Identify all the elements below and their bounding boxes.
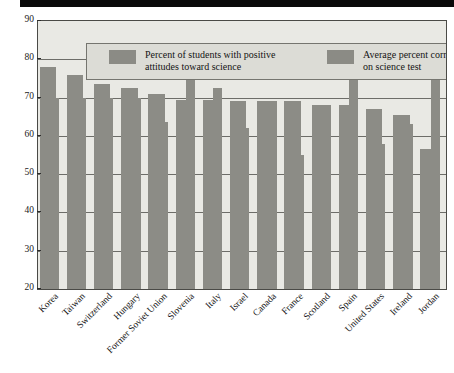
y-axis-tick-label: 30 — [0, 245, 34, 255]
y-axis-tick-label: 40 — [0, 206, 34, 216]
y-axis-tick-mark — [37, 250, 41, 251]
bar-positive-attitudes — [312, 105, 328, 289]
y-axis-tick-mark — [37, 288, 41, 289]
legend-item-test-score: Average percent correct on science test — [327, 49, 447, 72]
top-rule — [20, 0, 454, 7]
bar-positive-attitudes — [339, 105, 355, 289]
y-axis-tick-label: 60 — [0, 130, 34, 140]
bar-positive-attitudes — [148, 94, 164, 289]
x-axis-labels: KoreaTaiwanSwitzerlandHungaryFormer Sovi… — [0, 291, 454, 373]
x-axis-tick-label: Ireland — [388, 291, 414, 317]
x-axis-tick-label: Canada — [250, 291, 277, 318]
legend-label: Percent of students with positive attitu… — [145, 49, 276, 72]
bar-positive-attitudes — [40, 67, 56, 289]
y-axis-tick-mark — [37, 20, 41, 21]
bar-positive-attitudes — [366, 109, 382, 289]
bar-positive-attitudes — [230, 101, 246, 289]
bar-positive-attitudes — [121, 88, 137, 289]
x-axis-tick-label: Slovenia — [165, 291, 196, 322]
y-axis-tick-label: 90 — [0, 15, 34, 25]
y-axis-tick-label: 70 — [0, 92, 34, 102]
y-axis-tick-mark — [37, 211, 41, 212]
legend-swatch-icon — [109, 50, 136, 64]
bar-positive-attitudes — [393, 115, 409, 289]
bar-positive-attitudes — [176, 100, 192, 290]
y-axis-tick-mark — [37, 97, 41, 98]
y-axis-tick-label: 80 — [0, 53, 34, 63]
x-axis-tick-label: Israel — [228, 291, 250, 313]
x-axis-tick-label: Spain — [337, 291, 359, 313]
chart-legend: Percent of students with positive attitu… — [86, 43, 447, 80]
chart-page: Percent 9080706050403020 Percent of stud… — [0, 0, 454, 373]
bar-positive-attitudes — [94, 84, 110, 289]
x-axis-tick-label: France — [279, 291, 304, 316]
x-axis-tick-label: Jordan — [416, 291, 441, 316]
y-axis-tick-mark — [37, 135, 41, 136]
x-axis-tick-label: Scotland — [301, 291, 332, 322]
x-axis-tick-label: Italy — [204, 291, 223, 310]
bar-positive-attitudes — [67, 75, 83, 289]
bar-group — [40, 21, 67, 289]
legend-label: Average percent correct on science test — [363, 49, 447, 72]
bar-positive-attitudes — [203, 100, 219, 290]
y-axis-ticks: 9080706050403020 — [0, 20, 34, 290]
y-axis-tick-label: 50 — [0, 168, 34, 178]
legend-swatch-icon — [327, 50, 354, 64]
bar-positive-attitudes — [420, 149, 436, 289]
legend-item-attitudes: Percent of students with positive attitu… — [109, 49, 319, 72]
y-axis-tick-mark — [37, 173, 41, 174]
y-axis-tick-mark — [37, 58, 41, 59]
x-axis-tick-label: Korea — [37, 291, 60, 314]
plot-area: Percent of students with positive attitu… — [37, 20, 447, 290]
bar-positive-attitudes — [284, 101, 300, 289]
bar-positive-attitudes — [257, 101, 273, 289]
